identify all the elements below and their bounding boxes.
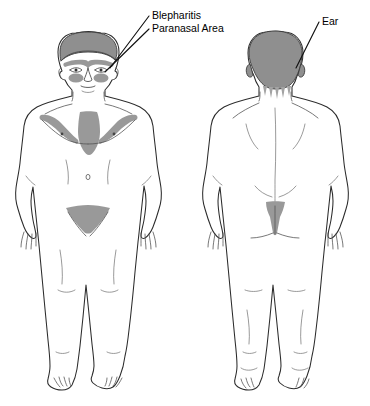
anterior-left-pupil (75, 69, 78, 72)
body-diagram-svg (0, 0, 370, 406)
posterior-figure (203, 31, 349, 390)
anterior-right-paranasal-region (94, 74, 109, 83)
callout-label-ear: Ear (322, 15, 338, 28)
callout-label-paranasal: Paranasal Area (152, 22, 224, 35)
anterior-left-nipple (61, 133, 64, 136)
callout-label-blepharitis: Blepharitis (152, 9, 201, 22)
anterior-right-nipple (113, 133, 116, 136)
anterior-figure (16, 32, 162, 391)
anatomical-distribution-figure: Blepharitis Paranasal Area Ear (0, 0, 370, 406)
anterior-left-paranasal-region (69, 74, 84, 83)
anterior-right-pupil (100, 69, 103, 72)
